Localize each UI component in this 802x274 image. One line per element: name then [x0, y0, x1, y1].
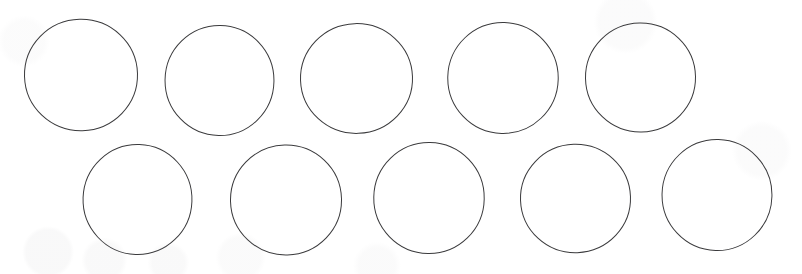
circle-4: [446, 21, 560, 136]
circle-6: [80, 142, 194, 257]
circle-10: [660, 138, 774, 253]
circle-3: [298, 21, 415, 136]
scanned-page: Ten Circles Worksheet: [0, 0, 802, 274]
circle-5: [584, 21, 697, 133]
circle-8: [372, 141, 485, 255]
circle-7: [229, 143, 344, 257]
circle-drawing-layer: [0, 0, 802, 274]
circle-1: [23, 17, 140, 132]
circle-2: [163, 24, 275, 137]
circle-9: [518, 141, 633, 254]
